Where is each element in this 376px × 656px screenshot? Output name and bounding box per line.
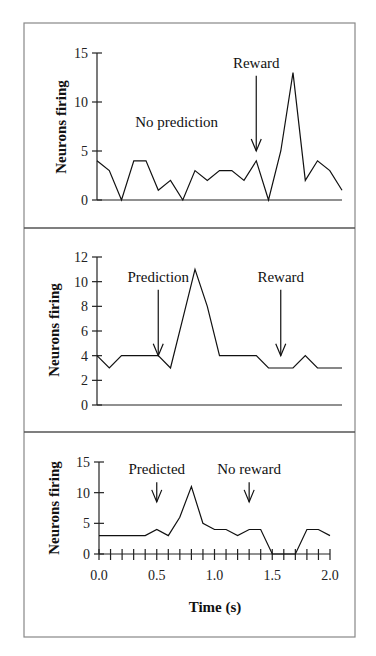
neuron-firing-figure: Neurons firing 051015 No prediction Rewa… — [0, 0, 376, 656]
y-ticks: 024681012 — [74, 250, 102, 413]
y-tick-label: 0 — [81, 398, 88, 413]
annotation-reward: Reward — [257, 269, 304, 285]
y-axis-label: Neurons firing — [53, 80, 69, 174]
y-tick-label: 10 — [74, 95, 88, 110]
y-tick-label: 6 — [81, 324, 88, 339]
annotation-predicted: Predicted — [128, 461, 185, 477]
y-tick-label: 4 — [81, 349, 88, 364]
y-tick-label: 0 — [83, 547, 90, 562]
annotations: Predicted No reward — [128, 461, 281, 502]
annotation-reward: Reward — [233, 55, 280, 71]
annotation-no-prediction: No prediction — [135, 114, 218, 130]
y-tick-label: 10 — [74, 275, 88, 290]
series-polyline — [97, 73, 342, 200]
y-tick-label: 5 — [81, 144, 88, 159]
y-tick-label: 15 — [76, 455, 90, 470]
y-tick-label: 5 — [83, 516, 90, 531]
y-axis-label: Neurons firing — [46, 461, 62, 555]
y-tick-label: 12 — [74, 250, 88, 265]
x-tick-label: 1.0 — [206, 568, 224, 583]
y-tick-label: 8 — [81, 299, 88, 314]
series-line — [99, 487, 330, 555]
x-tick-label: 2.0 — [321, 568, 339, 583]
y-axis-label: Neurons firing — [46, 283, 62, 377]
annotation-no-reward: No reward — [217, 461, 281, 477]
annotations: No prediction Reward — [135, 55, 280, 151]
x-tick-label: 0.5 — [148, 568, 166, 583]
series-line — [97, 73, 342, 200]
panel-no-prediction: Neurons firing 051015 No prediction Rewa… — [53, 46, 342, 208]
y-ticks: 051015 — [74, 46, 102, 208]
y-ticks: 051015 — [76, 455, 104, 562]
y-tick-label: 0 — [81, 193, 88, 208]
y-tick-label: 10 — [76, 486, 90, 501]
panel-prediction: Neurons firing 024681012 Prediction Rewa… — [46, 250, 342, 413]
annotation-prediction: Prediction — [127, 269, 189, 285]
x-axis-label: Time (s) — [189, 599, 242, 616]
y-tick-label: 15 — [74, 46, 88, 61]
y-tick-label: 2 — [81, 373, 88, 388]
panel-predicted-no-reward: Neurons firing 051015 0.00.51.01.52.0 Pr… — [46, 455, 339, 616]
x-tick-label: 1.5 — [264, 568, 282, 583]
x-tick-label: 0.0 — [90, 568, 108, 583]
series-polyline — [99, 487, 330, 555]
